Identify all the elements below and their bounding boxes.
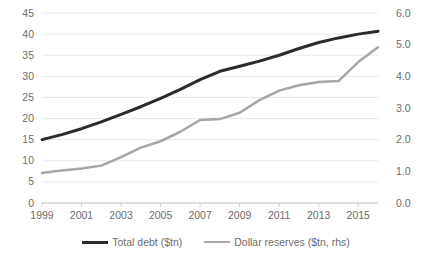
x-axis-tick-label: 2007 — [180, 210, 220, 221]
legend-item-total-debt: Total debt ($tn) — [82, 236, 182, 248]
series-line-dollar-reserves — [42, 47, 378, 173]
y-axis-right-tick-label: 4.0 — [396, 71, 428, 82]
x-axis-tick-label: 1999 — [22, 210, 62, 221]
legend-line-icon-total-debt — [82, 241, 108, 244]
y-axis-left-tick-label: 0 — [6, 198, 34, 209]
x-axis-tick-label: 2011 — [259, 210, 299, 221]
y-axis-left-tick-label: 15 — [6, 134, 34, 145]
axis-lines — [42, 203, 358, 207]
x-axis-tick-label: 2013 — [299, 210, 339, 221]
series-line-total-debt — [42, 31, 378, 140]
x-axis-tick-label: 2003 — [101, 210, 141, 221]
y-axis-left-tick-label: 45 — [6, 8, 34, 19]
y-axis-left-tick-label: 5 — [6, 176, 34, 187]
y-axis-left-tick-label: 25 — [6, 92, 34, 103]
y-axis-right-tick-label: 0.0 — [396, 198, 428, 209]
x-axis-tick-label: 2005 — [141, 210, 181, 221]
legend-label-total-debt: Total debt ($tn) — [112, 236, 182, 248]
chart-legend: Total debt ($tn) Dollar reserves ($tn, r… — [0, 236, 432, 248]
legend-label-dollar-reserves: Dollar reserves ($tn, rhs) — [234, 236, 350, 248]
y-axis-right-tick-label: 6.0 — [396, 8, 428, 19]
chart-container: 051015202530354045 0.01.02.03.04.05.06.0… — [0, 0, 432, 260]
y-axis-left-tick-label: 20 — [6, 113, 34, 124]
x-axis-tick-label: 2001 — [62, 210, 102, 221]
y-axis-left-tick-label: 35 — [6, 50, 34, 61]
y-axis-left-tick-label: 30 — [6, 71, 34, 82]
x-axis-tick-label: 2009 — [220, 210, 260, 221]
y-axis-left-tick-label: 10 — [6, 155, 34, 166]
series-lines — [42, 31, 378, 173]
y-axis-right-tick-label: 2.0 — [396, 134, 428, 145]
y-axis-right-tick-label: 3.0 — [396, 103, 428, 114]
y-axis-right-tick-label: 5.0 — [396, 39, 428, 50]
x-axis-tick-label: 2015 — [338, 210, 378, 221]
y-axis-right-tick-label: 1.0 — [396, 166, 428, 177]
legend-item-dollar-reserves: Dollar reserves ($tn, rhs) — [204, 236, 350, 248]
legend-line-icon-dollar-reserves — [204, 241, 230, 243]
y-axis-left-tick-label: 40 — [6, 29, 34, 40]
chart-plot-area — [0, 0, 432, 260]
